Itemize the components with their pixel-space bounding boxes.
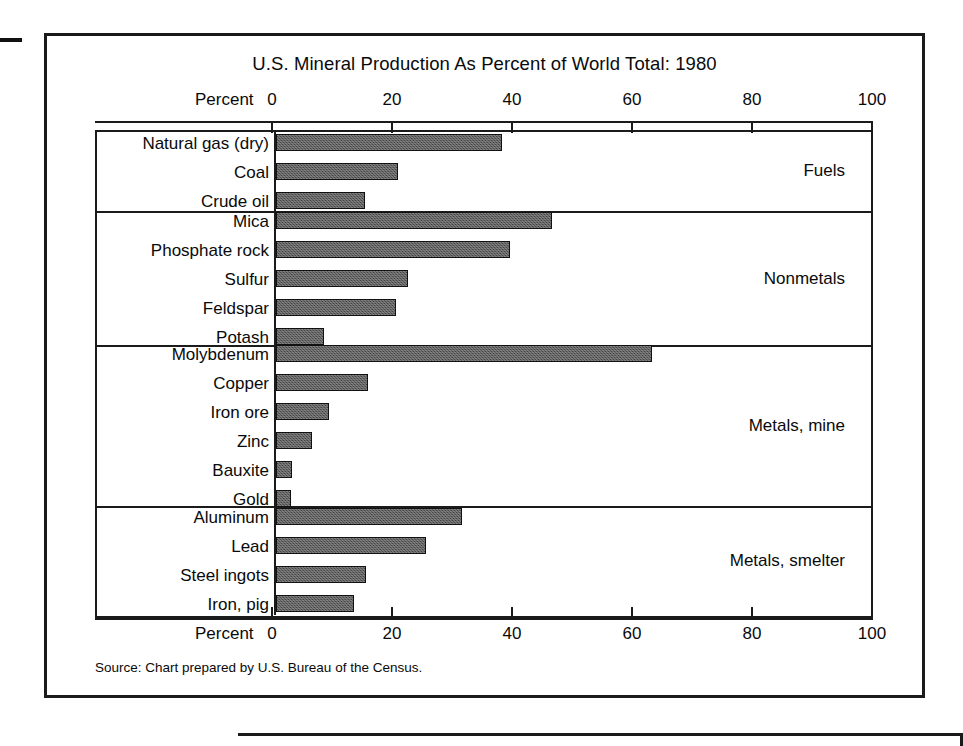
group-panel-fuels: Natural gas (dry)CoalCrude oilFuels xyxy=(97,132,871,213)
bar-category-label: Molybdenum xyxy=(172,346,269,363)
bar xyxy=(276,374,368,391)
bar-row: Natural gas (dry) xyxy=(97,129,871,158)
x-tick-label-20: 20 xyxy=(383,90,402,110)
bar xyxy=(276,345,652,362)
x-tick-mark-100 xyxy=(871,123,873,133)
group-label: Metals, mine xyxy=(749,416,845,436)
bar-row: Sulfur xyxy=(97,265,871,294)
x-tick-label-20: 20 xyxy=(383,624,402,644)
bar-category-label: Zinc xyxy=(237,433,269,450)
bar-category-label: Bauxite xyxy=(212,462,269,479)
bar-category-label: Phosphate rock xyxy=(151,242,269,259)
x-tick-mark-100 xyxy=(871,607,873,618)
bar-category-label: Feldspar xyxy=(203,300,269,317)
bar-row: Aluminum xyxy=(97,503,871,532)
x-tick-mark-40 xyxy=(511,123,513,133)
x-tick-label-100: 100 xyxy=(858,624,886,644)
bar-category-label: Aluminum xyxy=(193,509,269,526)
x-axis-ticklabels-bottom: 020406080100 xyxy=(47,624,928,646)
plot-panels: Natural gas (dry)CoalCrude oilFuelsMicaP… xyxy=(95,130,873,618)
x-tick-label-40: 40 xyxy=(503,624,522,644)
group-panel-metals-mine: MolybdenumCopperIron oreZincBauxiteGoldM… xyxy=(97,347,871,508)
bar-category-label: Natural gas (dry) xyxy=(142,135,269,152)
bar-category-label: Sulfur xyxy=(225,271,269,288)
x-tick-mark-20 xyxy=(391,123,393,133)
group-label: Metals, smelter xyxy=(730,551,845,571)
bar xyxy=(276,461,292,478)
bar-row: Mica xyxy=(97,207,871,236)
group-rows: MolybdenumCopperIron oreZincBauxiteGoldM… xyxy=(97,347,871,506)
bar-category-label: Copper xyxy=(213,375,269,392)
chart-title: U.S. Mineral Production As Percent of Wo… xyxy=(47,53,922,75)
group-rows: MicaPhosphate rockSulfurFeldsparPotashNo… xyxy=(97,213,871,345)
figure-frame: U.S. Mineral Production As Percent of Wo… xyxy=(44,33,925,698)
x-axis-rule-bottom xyxy=(95,618,873,620)
x-tick-label-80: 80 xyxy=(743,90,762,110)
bar-category-label: Mica xyxy=(233,213,269,230)
bar-row: Bauxite xyxy=(97,456,871,485)
x-tick-label-80: 80 xyxy=(743,624,762,644)
group-rows: AluminumLeadSteel ingotsIron, pigMetals,… xyxy=(97,508,871,615)
bar-row: Coal xyxy=(97,158,871,187)
x-tick-mark-80 xyxy=(751,607,753,618)
scan-edge-mark xyxy=(0,38,22,42)
group-rows: Natural gas (dry)CoalCrude oilFuels xyxy=(97,132,871,211)
bar xyxy=(276,566,366,583)
x-tick-mark-20 xyxy=(391,607,393,618)
bar xyxy=(276,134,502,151)
x-tick-mark-60 xyxy=(631,123,633,133)
bar xyxy=(276,403,329,420)
bar xyxy=(276,241,510,258)
x-tick-label-60: 60 xyxy=(623,624,642,644)
bar xyxy=(276,163,398,180)
bar-category-label: Lead xyxy=(231,538,269,555)
x-tick-label-40: 40 xyxy=(503,90,522,110)
bar xyxy=(276,595,354,612)
group-panel-metals-smelter: AluminumLeadSteel ingotsIron, pigMetals,… xyxy=(97,508,871,615)
bar-row: Iron, pig xyxy=(97,590,871,619)
bar-row: Copper xyxy=(97,369,871,398)
x-tick-mark-0 xyxy=(271,607,273,618)
bar xyxy=(276,537,426,554)
page-bottom-rule xyxy=(238,733,963,736)
bar-category-label: Steel ingots xyxy=(180,567,269,584)
x-tick-mark-0 xyxy=(271,123,273,133)
group-panel-nonmetals: MicaPhosphate rockSulfurFeldsparPotashNo… xyxy=(97,213,871,347)
source-note: Source: Chart prepared by U.S. Bureau of… xyxy=(95,660,422,675)
bar xyxy=(276,270,408,287)
x-axis-rule-top xyxy=(95,121,873,123)
x-tick-label-0: 0 xyxy=(267,624,276,644)
group-label: Fuels xyxy=(803,161,845,181)
bar-category-label: Coal xyxy=(234,164,269,181)
bar xyxy=(276,432,312,449)
x-tick-label-0: 0 xyxy=(267,90,276,110)
x-tick-mark-60 xyxy=(631,607,633,618)
bar xyxy=(276,212,552,229)
x-tick-mark-40 xyxy=(511,607,513,618)
x-tick-label-100: 100 xyxy=(858,90,886,110)
bar-row: Phosphate rock xyxy=(97,236,871,265)
x-tick-mark-80 xyxy=(751,123,753,133)
x-tick-label-60: 60 xyxy=(623,90,642,110)
bar-category-label: Iron, pig xyxy=(208,596,269,613)
bar xyxy=(276,508,462,525)
bar xyxy=(276,299,396,316)
group-label: Nonmetals xyxy=(764,269,845,289)
x-axis-ticklabels-top: 020406080100 xyxy=(47,90,928,112)
bar-row: Feldspar xyxy=(97,294,871,323)
bar-row: Molybdenum xyxy=(97,340,871,369)
bar-category-label: Iron ore xyxy=(210,404,269,421)
